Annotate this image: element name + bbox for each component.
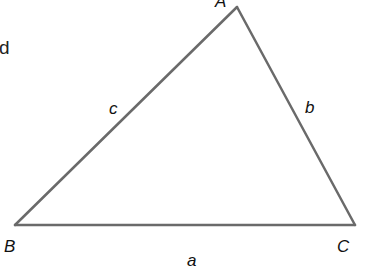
vertex-label-a: A xyxy=(215,0,226,10)
side-b-line xyxy=(237,7,355,225)
vertex-label-c: C xyxy=(337,238,349,255)
side-c-line xyxy=(15,7,237,225)
side-label-c: c xyxy=(109,100,118,117)
side-label-a: a xyxy=(187,252,196,269)
side-label-b: b xyxy=(305,99,314,116)
partial-text-fragment: d xyxy=(0,38,10,57)
vertex-label-b: B xyxy=(4,238,15,255)
triangle-diagram xyxy=(0,0,370,274)
